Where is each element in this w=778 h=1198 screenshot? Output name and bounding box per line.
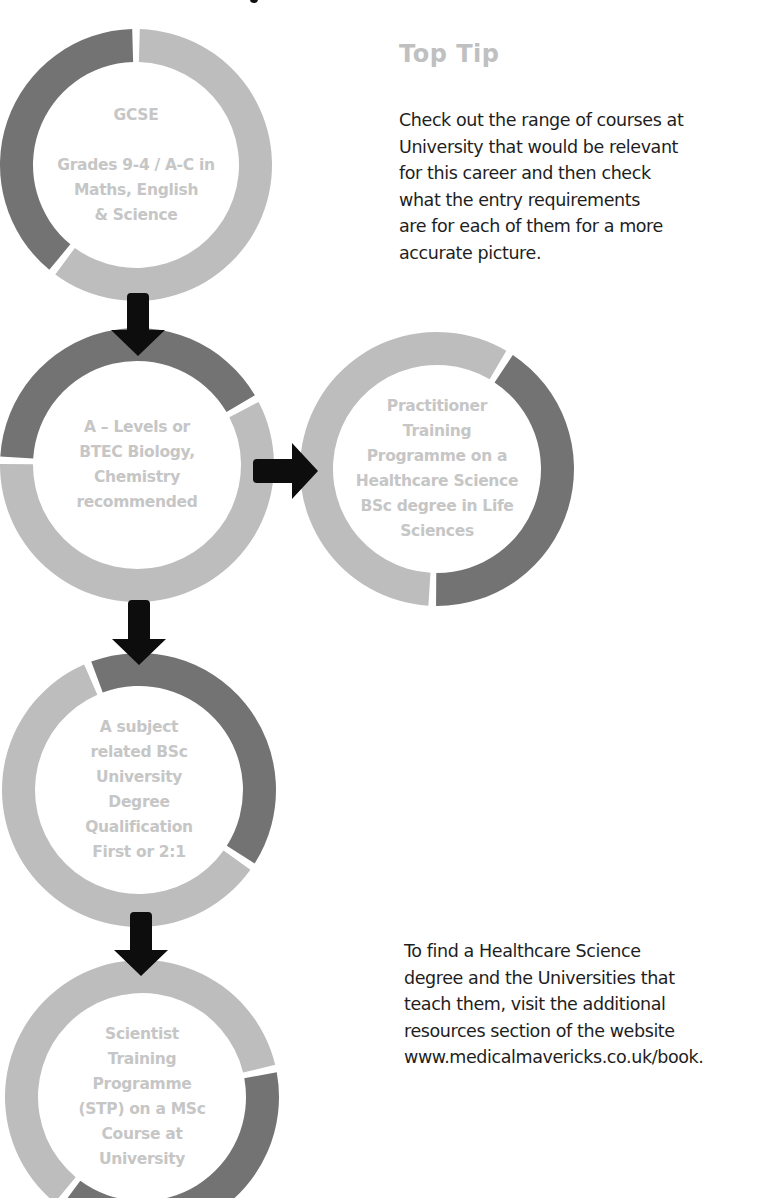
- node-label-line: Programme on a: [336, 444, 538, 469]
- node-label-line: Healthcare Science: [336, 469, 538, 494]
- top-tip-line: University that would be relevant: [399, 134, 778, 161]
- node-label-line: A – Levels or: [36, 415, 238, 440]
- node-label-line: Grades 9-4 / A-C in: [36, 153, 236, 178]
- node-label-line: Scientist: [41, 1022, 243, 1047]
- node-label-line: related BSc: [38, 740, 240, 765]
- node-label-line: Maths, English: [36, 178, 236, 203]
- node-label-line: University: [38, 765, 240, 790]
- resources-line: degree and the Universities that: [404, 965, 778, 992]
- node-label-line: (STP) on a MSc: [41, 1097, 243, 1122]
- top-tip-line: Check out the range of courses at: [399, 107, 778, 134]
- node-label-line: First or 2:1: [38, 840, 240, 865]
- node-label-line: A subject: [38, 715, 240, 740]
- node-label-line: [36, 128, 236, 153]
- node-label-line: Sciences: [336, 519, 538, 544]
- node-label-line: BSc degree in Life: [336, 494, 538, 519]
- node-label-line: Programme: [41, 1072, 243, 1097]
- top-tip-line: for this career and then check: [399, 160, 778, 187]
- resources-line: resources section of the website: [404, 1018, 778, 1045]
- node-label-line: Chemistry: [36, 465, 238, 490]
- resources-website-line: www.medicalmavericks.co.uk/book.: [404, 1044, 778, 1071]
- node-a-levels-label: A – Levels orBTEC Biology,Chemistryrecom…: [36, 415, 238, 515]
- resources-line: teach them, visit the additional: [404, 991, 778, 1018]
- node-label-line: Course at: [41, 1122, 243, 1147]
- node-ptp-label: PractitionerTrainingProgramme on aHealth…: [336, 394, 538, 544]
- node-label-line: GCSE: [36, 103, 236, 128]
- top-tip-line: accurate picture.: [399, 240, 778, 267]
- node-gcse-label: GCSE Grades 9-4 / A-C inMaths, English& …: [36, 103, 236, 228]
- node-label-line: Training: [41, 1047, 243, 1072]
- node-label-line: recommended: [36, 490, 238, 515]
- top-tip-body: Check out the range of courses at Univer…: [399, 107, 778, 266]
- node-bsc-degree-label: A subjectrelated BScUniversityDegreeQual…: [38, 715, 240, 865]
- node-label-line: Training: [336, 419, 538, 444]
- node-label-line: University: [41, 1147, 243, 1172]
- node-label-line: & Science: [36, 203, 236, 228]
- resources-note: To find a Healthcare Science degree and …: [404, 938, 778, 1071]
- node-label-line: Degree: [38, 790, 240, 815]
- top-tip-line: are for each of them for a more: [399, 213, 778, 240]
- resources-line: To find a Healthcare Science: [404, 938, 778, 965]
- node-label-line: Practitioner: [336, 394, 538, 419]
- node-label-line: Qualification: [38, 815, 240, 840]
- node-label-line: BTEC Biology,: [36, 440, 238, 465]
- top-tip-line: what the entry requirements: [399, 187, 778, 214]
- node-stp-label: ScientistTrainingProgramme(STP) on a MSc…: [41, 1022, 243, 1172]
- top-tip-heading: Top Tip: [399, 40, 499, 68]
